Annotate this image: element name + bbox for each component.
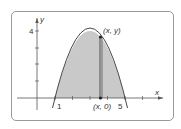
y-tick-label-4: 4 <box>29 27 34 36</box>
y-axis-arrow-icon <box>35 18 38 23</box>
foot-label: (x, 0) <box>93 102 112 111</box>
x-axis-label: x <box>154 88 160 97</box>
point-label: (x, y) <box>103 26 121 35</box>
y-axis-label: y <box>39 15 45 24</box>
x-tick-label-5: 5 <box>118 102 123 111</box>
point-x0 <box>99 96 102 99</box>
point-xy <box>99 35 102 38</box>
parabola-diagram: 4 y x 1 5 (x, y) (x, 0) <box>0 0 181 129</box>
shaded-region <box>55 31 125 98</box>
x-tick-label-1: 1 <box>57 102 62 111</box>
